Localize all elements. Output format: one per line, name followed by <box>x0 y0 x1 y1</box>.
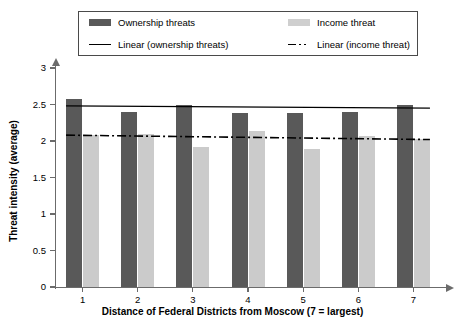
x-tick <box>82 287 83 292</box>
x-tick <box>192 287 193 292</box>
bar-income-6 <box>359 136 375 287</box>
bar-ownership-7 <box>397 105 413 288</box>
y-axis-arrow-icon <box>52 58 60 66</box>
y-tick-label: 0 <box>18 282 46 292</box>
x-tick-label: 5 <box>291 295 315 305</box>
bar-income-1 <box>83 135 99 287</box>
x-tick-label: 1 <box>71 295 95 305</box>
bar-income-2 <box>138 134 154 287</box>
legend-label-linear-income: Linear (income threat) <box>317 40 410 50</box>
bar-ownership-3 <box>176 105 192 288</box>
x-tick <box>303 287 304 292</box>
y-tick-label: 3 <box>18 63 46 73</box>
legend-dash-dot-line-icon <box>288 41 310 48</box>
legend-item-income-threat: Income threat <box>284 18 419 28</box>
y-tick-label: 2.5 <box>18 100 46 110</box>
x-tick <box>413 287 414 292</box>
legend-label-income-threat: Income threat <box>317 18 375 28</box>
legend-label-ownership-threats: Ownership threats <box>118 18 195 28</box>
bar-ownership-6 <box>342 112 358 287</box>
x-tick-label: 2 <box>126 295 150 305</box>
bar-income-4 <box>249 131 265 287</box>
bar-income-7 <box>414 139 430 287</box>
legend-item-linear-ownership: Linear (ownership threats) <box>79 40 284 50</box>
legend-swatch-light-icon <box>288 19 310 26</box>
y-tick-label: 1.5 <box>18 173 46 183</box>
bar-income-5 <box>304 149 320 287</box>
x-tick-label: 4 <box>236 295 260 305</box>
legend-solid-line-icon <box>89 41 111 48</box>
x-tick <box>137 287 138 292</box>
y-axis-title: Threat intensity (average) <box>9 81 19 281</box>
bar-ownership-2 <box>121 112 137 287</box>
chart-legend: Ownership threats Income threat Linear (… <box>78 11 418 56</box>
x-axis-title: Distance of Federal Districts from Mosco… <box>0 307 465 317</box>
x-axis-line <box>55 287 448 288</box>
legend-swatch-dark-icon <box>89 19 111 26</box>
bar-income-3 <box>193 147 209 287</box>
legend-label-linear-ownership: Linear (ownership threats) <box>118 40 228 50</box>
bar-ownership-4 <box>232 113 248 287</box>
x-tick <box>247 287 248 292</box>
x-tick-label: 3 <box>181 295 205 305</box>
y-tick-label: 2 <box>18 136 46 146</box>
legend-item-linear-income: Linear (income threat) <box>284 40 419 50</box>
x-tick-label: 7 <box>401 295 425 305</box>
bar-ownership-5 <box>287 113 303 287</box>
x-tick <box>358 287 359 292</box>
bar-ownership-1 <box>66 99 82 287</box>
y-tick-label: 1 <box>18 209 46 219</box>
chart-page: Ownership threats Income threat Linear (… <box>0 0 465 322</box>
y-tick-label: 0.5 <box>18 246 46 256</box>
bar-series-layer <box>55 68 448 287</box>
legend-item-ownership-threats: Ownership threats <box>79 18 284 28</box>
x-tick-label: 6 <box>346 295 370 305</box>
